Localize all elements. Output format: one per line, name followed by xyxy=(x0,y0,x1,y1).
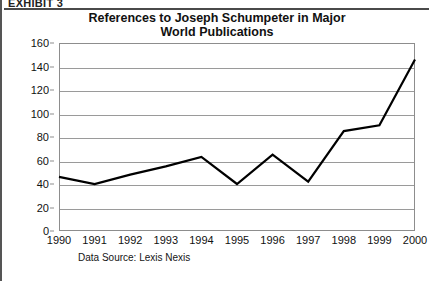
y-tick-label: 160 xyxy=(31,37,49,49)
line-series xyxy=(59,43,415,231)
chart-title-line-2: World Publications xyxy=(42,25,392,39)
y-tick-label: 40 xyxy=(37,178,49,190)
y-tick-mark xyxy=(50,137,54,138)
x-axis: 1990199119921993199419951996199719981999… xyxy=(59,234,415,250)
y-tick-mark xyxy=(50,66,54,67)
x-tick-label: 2000 xyxy=(403,234,427,246)
x-tick-label: 1999 xyxy=(367,234,391,246)
y-axis: 020406080100120140160 xyxy=(2,43,54,231)
x-tick-label: 1990 xyxy=(47,234,71,246)
y-tick-mark xyxy=(50,160,54,161)
x-tick-label: 1992 xyxy=(118,234,142,246)
y-tick-label: 100 xyxy=(31,108,49,120)
x-tick-label: 1994 xyxy=(189,234,213,246)
y-tick-label: 140 xyxy=(31,61,49,73)
x-tick-label: 1995 xyxy=(225,234,249,246)
y-tick-mark xyxy=(50,207,54,208)
x-tick-label: 1997 xyxy=(296,234,320,246)
y-tick-label: 80 xyxy=(37,131,49,143)
x-tick-label: 1996 xyxy=(260,234,284,246)
y-tick-mark xyxy=(50,231,54,232)
y-tick-label: 60 xyxy=(37,155,49,167)
y-tick-label: 120 xyxy=(31,84,49,96)
source-note: Data Source: Lexis Nexis xyxy=(78,252,190,263)
plot-wrapper xyxy=(59,43,415,231)
x-tick-label: 1991 xyxy=(82,234,106,246)
header-divider xyxy=(4,8,429,10)
y-tick-mark xyxy=(50,43,54,44)
y-tick-mark xyxy=(50,184,54,185)
y-tick-mark xyxy=(50,90,54,91)
y-tick-label: 20 xyxy=(37,202,49,214)
x-tick-label: 1998 xyxy=(332,234,356,246)
chart-title: References to Joseph Schumpeter in Major… xyxy=(42,11,392,39)
y-tick-mark xyxy=(50,113,54,114)
x-tick-label: 1993 xyxy=(154,234,178,246)
chart-title-line-1: References to Joseph Schumpeter in Major xyxy=(42,11,392,25)
